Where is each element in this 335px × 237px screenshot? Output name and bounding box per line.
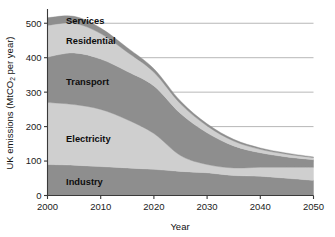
y-tick-label-200: 200 xyxy=(26,121,42,132)
band-label-electricity: Electricity xyxy=(66,134,111,144)
y-tick-label-400: 400 xyxy=(26,52,42,63)
x-tick-label-2010: 2010 xyxy=(90,201,111,212)
y-tick-label-500: 500 xyxy=(26,18,42,29)
band-label-services: Services xyxy=(66,16,104,26)
y-tick-label-300: 300 xyxy=(26,87,42,98)
x-tick-label-2000: 2000 xyxy=(37,201,58,212)
y-tick-label-100: 100 xyxy=(26,155,42,166)
x-axis-title: Year xyxy=(170,221,189,232)
y-axis-title: UK emissions (MtCO2 per year) xyxy=(4,36,16,169)
band-label-residential: Residential xyxy=(66,36,116,46)
chart-canvas: 0100200300400500 20002010202020302040205… xyxy=(0,0,335,237)
x-tick-label-2040: 2040 xyxy=(250,201,271,212)
x-tick-label-2030: 2030 xyxy=(197,201,218,212)
x-tick-label-2050: 2050 xyxy=(303,201,324,212)
band-label-transport: Transport xyxy=(66,77,109,87)
x-tick-label-2020: 2020 xyxy=(143,201,164,212)
y-tick-label-0: 0 xyxy=(36,190,41,201)
band-label-industry: Industry xyxy=(66,177,104,187)
stacked-area-chart: 0100200300400500 20002010202020302040205… xyxy=(0,0,335,237)
